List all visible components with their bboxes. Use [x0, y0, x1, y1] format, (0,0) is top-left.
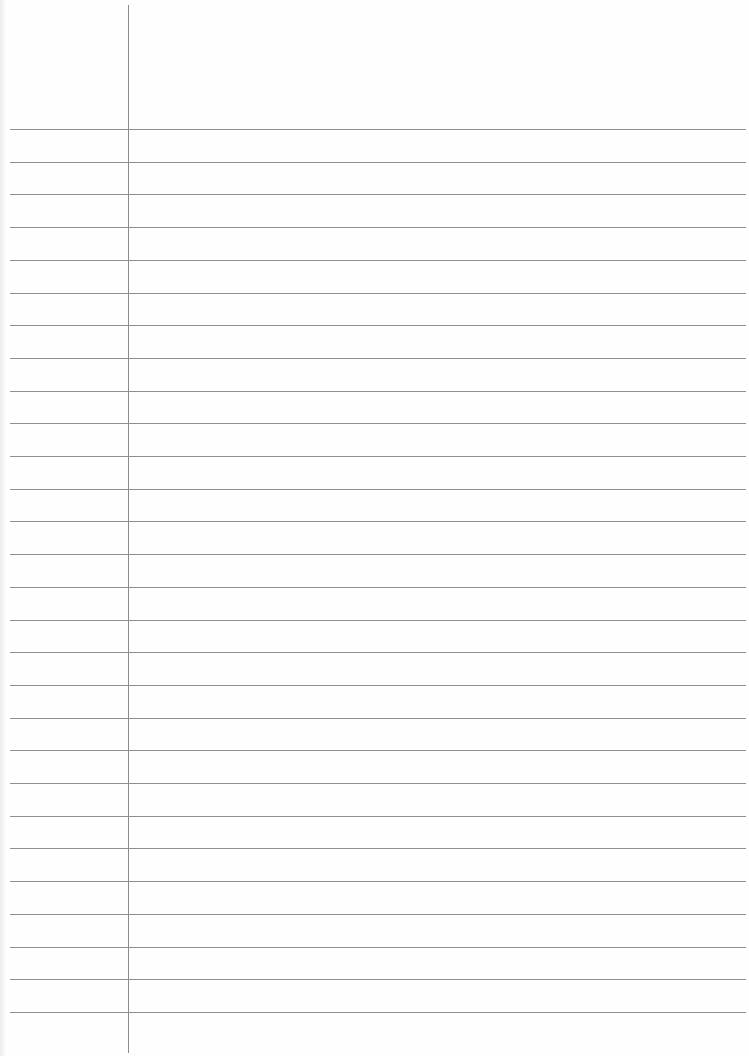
ruled-line [10, 848, 746, 849]
ruled-line [10, 783, 746, 784]
ruled-line [10, 194, 746, 195]
ruled-line [10, 718, 746, 719]
paper-edge-shadow [0, 0, 6, 1056]
ruled-line [10, 881, 746, 882]
ruled-line [10, 162, 746, 163]
ruled-line [10, 750, 746, 751]
ruled-line [10, 325, 746, 326]
ruled-line [10, 358, 746, 359]
ruled-line [10, 587, 746, 588]
ruled-line [10, 456, 746, 457]
ruled-line [10, 554, 746, 555]
ruled-line [10, 1012, 746, 1013]
ruled-line [10, 521, 746, 522]
ruled-line [10, 423, 746, 424]
ruled-line [10, 620, 746, 621]
lined-paper-sheet [0, 0, 749, 1056]
ruled-line [10, 685, 746, 686]
ruled-line [10, 227, 746, 228]
ruled-line [10, 391, 746, 392]
ruled-line [10, 489, 746, 490]
ruled-line [10, 914, 746, 915]
ruled-line [10, 816, 746, 817]
ruled-line [10, 260, 746, 261]
margin-line [128, 5, 129, 1053]
ruled-line [10, 979, 746, 980]
ruled-line [10, 652, 746, 653]
ruled-line [10, 947, 746, 948]
ruled-line [10, 129, 746, 130]
ruled-line [10, 293, 746, 294]
